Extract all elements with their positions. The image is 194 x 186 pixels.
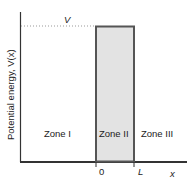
tick-zero-label: 0 bbox=[99, 166, 104, 177]
zone-3-label: Zone III bbox=[141, 128, 173, 139]
potential-barrier-diagram: V 0 L x Zone I Zone II Zone III Potentia… bbox=[0, 0, 194, 186]
potential-barrier bbox=[96, 27, 134, 162]
tick-L-label: L bbox=[138, 166, 143, 177]
barrier-height-label: V bbox=[64, 14, 72, 25]
y-axis-label: Potential energy, V(x) bbox=[5, 49, 16, 140]
x-axis-label: x bbox=[169, 168, 176, 179]
zone-2-label: Zone II bbox=[99, 128, 129, 139]
zone-1-label: Zone I bbox=[44, 128, 71, 139]
